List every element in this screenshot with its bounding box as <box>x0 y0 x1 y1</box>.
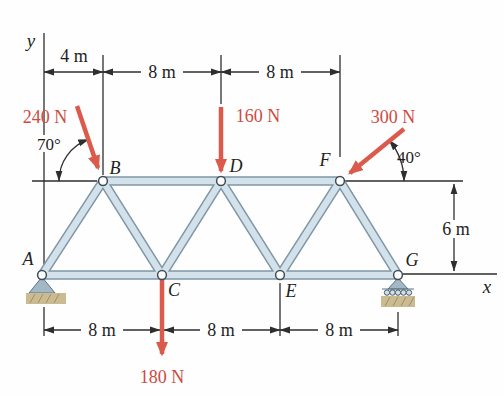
angle-label-70deg: 70° <box>37 135 61 154</box>
joint-label-g: G <box>406 250 419 270</box>
dimension-label-8m-bottom-3: 8 m <box>325 320 353 340</box>
dimension-label-4m: 4 m <box>60 46 88 66</box>
member-ef <box>280 181 340 275</box>
truss-diagram-svg: y x A B C D E F G 240 N 160 N 300 N 180 … <box>0 0 504 396</box>
member-cd <box>162 181 221 275</box>
member-de <box>221 181 280 275</box>
member-fg <box>340 181 398 275</box>
roller-wheel <box>390 290 395 295</box>
joint-c <box>158 271 167 280</box>
roller-wheel <box>401 290 406 295</box>
truss-members <box>42 181 398 275</box>
roller-support-g <box>381 278 415 307</box>
dimension-label-8m-bottom-2: 8 m <box>207 320 235 340</box>
force-label-160n: 160 N <box>236 106 281 126</box>
applied-forces <box>77 106 404 354</box>
pin-support-a <box>26 277 66 304</box>
dimension-label-8m-bottom-1: 8 m <box>88 320 116 340</box>
member-bc <box>103 181 162 275</box>
member-ab <box>42 181 103 275</box>
joint-label-e: E <box>285 281 297 301</box>
dimension-label-8m-top-2: 8 m <box>266 62 294 82</box>
joint-label-a: A <box>22 249 35 269</box>
joint-label-b: B <box>110 158 121 178</box>
joint-d <box>217 177 226 186</box>
joint-b <box>99 177 108 186</box>
force-label-180n: 180 N <box>140 367 185 387</box>
supports <box>26 277 415 307</box>
force-label-240n: 240 N <box>23 107 68 127</box>
joint-a <box>38 271 47 280</box>
dimension-label-6m: 6 m <box>442 219 470 239</box>
labels: y x A B C D E F G 240 N 160 N 300 N 180 … <box>22 30 492 387</box>
dimension-label-8m-top-1: 8 m <box>148 62 176 82</box>
force-label-300n: 300 N <box>371 107 416 127</box>
joint-label-c: C <box>168 280 181 300</box>
joint-f <box>336 177 345 186</box>
x-axis-label: x <box>482 276 492 297</box>
roller-wheel <box>406 290 411 295</box>
roller-wheel <box>384 290 389 295</box>
joint-g <box>394 271 403 280</box>
y-axis-label: y <box>25 30 36 51</box>
angle-label-40deg: 40° <box>397 148 421 167</box>
roller-wheel <box>395 290 400 295</box>
truss-figure: y x A B C D E F G 240 N 160 N 300 N 180 … <box>0 0 504 396</box>
joint-e <box>276 271 285 280</box>
force-arrow-240n <box>77 106 98 168</box>
joint-label-f: F <box>319 150 332 170</box>
joint-label-d: D <box>229 156 243 176</box>
